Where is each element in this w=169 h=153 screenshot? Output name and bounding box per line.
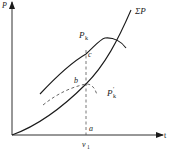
power-balance-diagram: P t ΣP P k P k ′ c b a v 1: [0, 0, 169, 153]
point-c-label: c: [88, 50, 92, 59]
p-k-label: P: [78, 30, 85, 40]
y-axis-label: P: [1, 1, 7, 10]
p-k-label-sub: k: [85, 35, 88, 41]
p-k-prime-label: P: [106, 88, 113, 98]
point-b-label: b: [74, 76, 78, 85]
v1-tick-label: v: [82, 140, 86, 149]
point-a-label: a: [89, 124, 93, 133]
sum-p-label: ΣP: [134, 6, 146, 16]
sum-p-curve: [12, 10, 131, 135]
p-k-prime-label-sub: k: [113, 93, 116, 99]
p-k-prime-curve: [43, 84, 97, 105]
p-k-prime-label-sup: ′: [113, 86, 115, 92]
v1-tick-sub: 1: [87, 144, 90, 150]
x-axis-label: t: [164, 131, 167, 140]
